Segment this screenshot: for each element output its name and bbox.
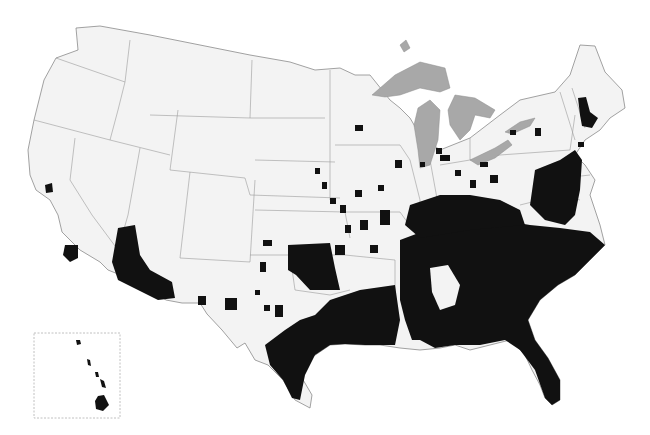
southeast-region [400, 220, 605, 405]
us-choropleth-map [0, 0, 650, 435]
socal-region [63, 245, 78, 262]
hawaii-inset [34, 333, 120, 418]
